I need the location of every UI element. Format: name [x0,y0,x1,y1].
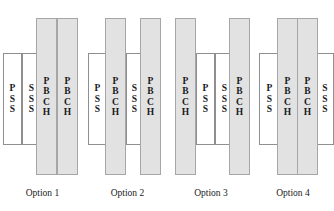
bar-label: PSS [95,83,101,115]
bar-label: PBCH [147,76,154,118]
bar-pbch-option-3-4: PBCH [229,18,250,175]
bar-label: SSS [132,83,137,115]
bar-sss-option-4-4: SSS [316,53,334,145]
bar-label: PSS [267,83,273,115]
bar-label: PSS [203,83,209,115]
bar-label: PBCH [43,76,50,118]
bar-label: SSS [322,83,327,115]
bar-label: PBCH [304,76,311,118]
bar-pss-option-3-2: PSS [196,53,215,145]
bar-pbch-option-4-2: PBCH [277,18,298,175]
bar-label: PBCH [284,76,291,118]
bar-label: PBCH [64,76,71,118]
ss-block-options-diagram: PSSSSSPBCHPBCHOption 1PSSPBCHSSSPBCHOpti… [0,0,334,211]
bar-pbch-option-2-4: PBCH [140,18,161,175]
bar-label: PSS [10,83,16,115]
bar-pbch-option-4-3: PBCH [297,18,318,175]
bar-pbch-option-1-4: PBCH [57,18,78,175]
bar-label: PBCH [236,76,243,118]
bar-pbch-option-2-2: PBCH [105,18,126,175]
option-caption-4: Option 4 [252,188,334,198]
bar-label: SSS [29,83,34,115]
bar-label: SSS [222,83,227,115]
bar-pss-option-1-1: PSS [3,53,22,145]
bar-pbch-option-3-1: PBCH [175,18,196,175]
bar-pbch-option-1-3: PBCH [36,18,57,175]
bar-label: PBCH [112,76,119,118]
bar-label: PBCH [182,76,189,118]
